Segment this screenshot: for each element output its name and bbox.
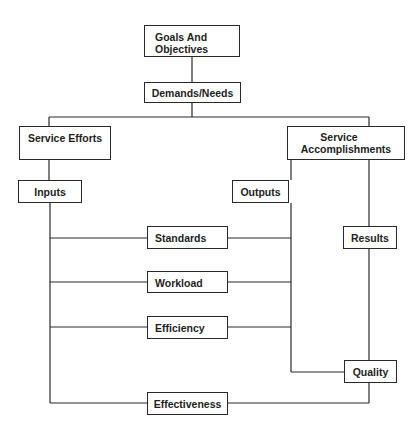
node-label: Results bbox=[351, 232, 389, 244]
node-inputs: Inputs bbox=[18, 180, 82, 203]
node-label: Demands/Needs bbox=[152, 87, 234, 99]
node-service-efforts: Service Efforts bbox=[19, 126, 111, 160]
node-label: Service Efforts bbox=[28, 132, 102, 144]
node-label: Inputs bbox=[34, 186, 66, 198]
node-workload: Workload bbox=[147, 271, 228, 293]
node-label-line: Objectives bbox=[155, 43, 208, 55]
node-label: Quality bbox=[353, 366, 389, 378]
node-label: Workload bbox=[155, 277, 203, 289]
node-service-accomplishments: Service Accomplishments bbox=[287, 126, 405, 160]
node-label: Outputs bbox=[240, 186, 280, 198]
flowchart-canvas: Goals And Objectives Demands/Needs Servi… bbox=[0, 0, 419, 439]
node-effectiveness: Effectiveness bbox=[147, 392, 228, 415]
node-label-line: Goals And bbox=[155, 31, 208, 43]
node-goals-and-objectives: Goals And Objectives bbox=[144, 25, 240, 57]
node-label-line: Service bbox=[301, 131, 391, 143]
node-quality: Quality bbox=[344, 360, 397, 383]
node-label: Efficiency bbox=[155, 322, 205, 334]
node-results: Results bbox=[343, 226, 397, 249]
node-label-line: Accomplishments bbox=[301, 143, 391, 155]
node-demands-needs: Demands/Needs bbox=[144, 82, 241, 103]
node-outputs: Outputs bbox=[232, 180, 289, 203]
node-label: Standards bbox=[155, 232, 206, 244]
node-label: Effectiveness bbox=[154, 398, 222, 410]
node-efficiency: Efficiency bbox=[147, 316, 228, 339]
node-standards: Standards bbox=[147, 226, 228, 249]
